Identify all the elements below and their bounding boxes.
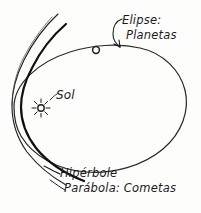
planet-marker [93, 47, 100, 54]
label-ellipse-title: Elipse: [122, 14, 161, 26]
conic-orbits-sketch: Elipse: Planetas Sol Hipérbole Parábola:… [0, 0, 201, 213]
label-sun: Sol [56, 89, 75, 102]
label-ellipse-bodies: Planetas [126, 29, 177, 41]
parabola-leader-line [50, 180, 65, 190]
sun-glyph [32, 99, 50, 117]
label-hyperbola: Hipérbole [60, 167, 117, 179]
ellipse-leader-arrow [113, 19, 122, 47]
label-parabola: Parábola: Cometas [64, 182, 176, 194]
